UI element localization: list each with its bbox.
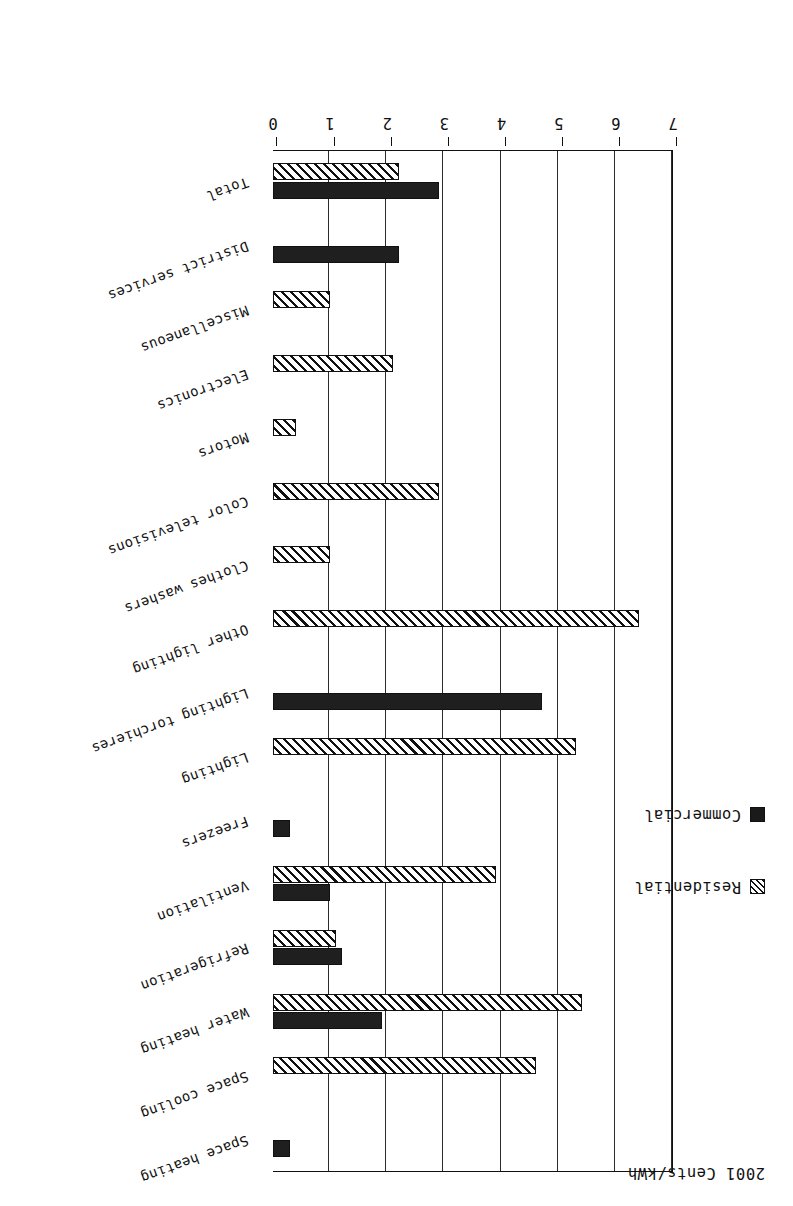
- bar-residential[interactable]: [273, 355, 393, 372]
- category-label: Miscellaneous: [139, 302, 251, 356]
- axis-tick-1: [334, 137, 335, 146]
- bar-residential[interactable]: [273, 738, 576, 755]
- bar-residential[interactable]: [273, 610, 639, 627]
- bar-commercial[interactable]: [273, 884, 330, 901]
- category-row: [273, 405, 672, 469]
- axis-tick-label-6: 6: [596, 114, 636, 132]
- bar-commercial[interactable]: [273, 693, 542, 710]
- category-row: [273, 277, 672, 341]
- category-label: Freezers: [180, 813, 251, 852]
- category-label: Space heating: [139, 1133, 251, 1187]
- axis-tick-3: [448, 137, 449, 146]
- category-row: [273, 852, 672, 916]
- axis-tick-2: [391, 137, 392, 146]
- category-row: [273, 213, 672, 277]
- category-label: Lighting: [180, 749, 251, 788]
- category-row: [273, 1107, 672, 1171]
- axis-tick-7: [677, 137, 678, 146]
- plot-area: [273, 150, 673, 1172]
- category-row: [273, 149, 672, 213]
- category-label: Space cooling: [139, 1069, 251, 1123]
- bar-chart-figure: 2001 Cents/kWh Residential Commercial 76…: [0, 0, 793, 1206]
- category-row: [273, 1043, 672, 1107]
- bar-residential[interactable]: [273, 866, 496, 883]
- bar-residential[interactable]: [273, 1057, 536, 1074]
- filled-square-icon: [750, 808, 765, 823]
- bar-residential[interactable]: [273, 163, 399, 180]
- category-label: Ventilation: [155, 877, 251, 925]
- bar-commercial[interactable]: [273, 1140, 290, 1157]
- axis-tick-label-7: 7: [653, 114, 693, 132]
- category-label: Total: [204, 174, 250, 204]
- axis-tick-label-0: 0: [253, 114, 293, 132]
- bar-commercial[interactable]: [273, 246, 399, 263]
- category-label: Motors: [196, 430, 251, 463]
- category-label: Color televisions: [106, 494, 251, 560]
- category-row: [273, 979, 672, 1043]
- axis-tick-label-5: 5: [539, 114, 579, 132]
- category-row: [273, 596, 672, 660]
- axis-tick-4: [505, 137, 506, 146]
- rotated-figure-wrapper: 2001 Cents/kWh Residential Commercial 76…: [0, 0, 793, 1206]
- bar-residential[interactable]: [273, 483, 439, 500]
- category-row: [273, 341, 672, 405]
- bar-commercial[interactable]: [273, 820, 290, 837]
- category-label: Other lighting: [130, 622, 250, 679]
- axis-tick-label-2: 2: [367, 114, 407, 132]
- axis-tick-0: [277, 137, 278, 146]
- category-row: [273, 916, 672, 980]
- category-label: District services: [106, 238, 251, 304]
- axis-tick-6: [619, 137, 620, 146]
- bar-residential[interactable]: [273, 546, 330, 563]
- bar-commercial[interactable]: [273, 1012, 382, 1029]
- category-label: Water heating: [139, 1005, 251, 1059]
- bar-residential[interactable]: [273, 291, 330, 308]
- category-row: [273, 660, 672, 724]
- bar-residential[interactable]: [273, 994, 582, 1011]
- category-row: [273, 788, 672, 852]
- axis-tick-5: [562, 137, 563, 146]
- category-label: Clothes washers: [122, 558, 251, 618]
- bar-commercial[interactable]: [273, 948, 342, 965]
- bar-residential[interactable]: [273, 419, 296, 436]
- hatched-square-icon: [750, 880, 765, 895]
- category-row: [273, 724, 672, 788]
- bar-residential[interactable]: [273, 930, 336, 947]
- axis-tick-label-3: 3: [424, 114, 464, 132]
- category-label: Lighting torchieres: [89, 685, 250, 757]
- category-row: [273, 532, 672, 596]
- category-label: Electronics: [155, 366, 251, 414]
- category-label: Refrigeration: [139, 941, 251, 995]
- category-row: [273, 468, 672, 532]
- axis-tick-label-4: 4: [482, 114, 522, 132]
- bar-commercial[interactable]: [273, 182, 439, 199]
- axis-tick-label-1: 1: [310, 114, 350, 132]
